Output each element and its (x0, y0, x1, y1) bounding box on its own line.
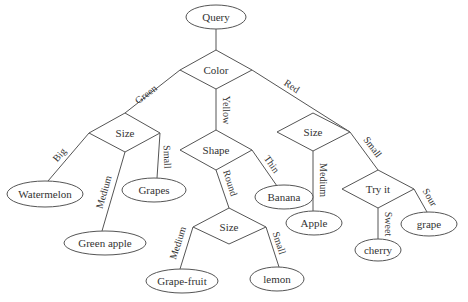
edge-label-medium-green: Medium (94, 174, 114, 210)
leaf-node-lemon: lemon (250, 267, 304, 291)
decision-label-size-green: Size (116, 127, 135, 139)
leaf-label-lemon: lemon (263, 273, 291, 285)
decision-label-size-red: Size (304, 126, 323, 138)
edge-label-thin: Thin (262, 153, 282, 175)
root-node-label: Query (202, 11, 230, 23)
edge-label-sweet: Sweet (383, 212, 394, 237)
leaf-node-green-apple: Green apple (64, 231, 146, 255)
decision-tree-diagram: Green Yellow Red Big Medium Small Round … (0, 0, 468, 302)
leaf-node-banana: Banana (255, 185, 313, 209)
decision-label-size-round: Size (220, 221, 239, 233)
decision-label-color: Color (203, 64, 228, 76)
edge-label-small-red: Small (361, 134, 384, 159)
decision-node-shape: Shape (180, 130, 252, 170)
leaf-node-cherry: cherry (355, 239, 401, 261)
edge-label-yellow: Yellow (221, 96, 232, 125)
edge-label-medium-round: Medium (167, 225, 188, 261)
decision-node-color: Color (180, 50, 252, 89)
leaf-node-grapes: Grapes (122, 178, 186, 202)
root-node: Query (186, 5, 246, 29)
leaf-node-watermelon: Watermelon (7, 181, 83, 207)
decision-node-size-round: Size (193, 208, 266, 244)
edge-label-medium-red: Medium (318, 163, 329, 197)
edge-label-green: Green (133, 82, 159, 106)
leaf-label-banana: Banana (268, 191, 301, 203)
leaf-node-grape: grape (401, 212, 457, 236)
edge-small-green (157, 133, 160, 178)
leaf-label-grapefruit: Grape-fruit (157, 275, 206, 287)
decision-node-size-red: Size (277, 113, 350, 151)
edge-label-small-green: Small (162, 145, 174, 169)
decision-node-size-green: Size (89, 113, 160, 152)
edge-label-small-round: Small (270, 230, 288, 256)
leaf-node-grapefruit: Grape-fruit (146, 269, 218, 293)
leaf-label-apple: Apple (301, 217, 328, 229)
leaf-label-grape: grape (417, 218, 442, 230)
leaf-label-green-apple: Green apple (78, 237, 132, 249)
leaf-label-cherry: cherry (364, 244, 393, 256)
decision-label-try-it: Try it (366, 183, 390, 195)
leaf-node-apple: Apple (286, 211, 342, 235)
leaf-label-watermelon: Watermelon (18, 188, 72, 200)
decision-label-shape: Shape (203, 144, 230, 156)
leaf-label-grapes: Grapes (138, 184, 169, 196)
edge-label-red: Red (282, 77, 302, 95)
decision-node-try-it: Try it (342, 170, 414, 208)
